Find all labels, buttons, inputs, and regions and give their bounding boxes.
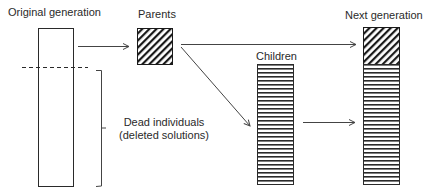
next-generation-parents-part bbox=[364, 28, 400, 65]
dead-individuals-bracket bbox=[96, 71, 106, 187]
parents-box bbox=[138, 29, 173, 65]
children-box bbox=[258, 65, 294, 185]
original-generation-label: Original generation bbox=[8, 6, 101, 19]
original-generation-box bbox=[39, 29, 74, 187]
ga-diagram bbox=[0, 0, 433, 193]
dead-individuals-line2: (deleted solutions) bbox=[118, 129, 210, 142]
parents-label: Parents bbox=[138, 8, 176, 21]
arrow-parents-to-children bbox=[181, 47, 250, 126]
dead-individuals-label: Dead individuals (deleted solutions) bbox=[118, 116, 210, 142]
dead-individuals-line1: Dead individuals bbox=[118, 116, 210, 129]
next-generation-children-part bbox=[364, 65, 400, 185]
children-label: Children bbox=[256, 50, 297, 63]
next-generation-label: Next generation bbox=[345, 9, 423, 22]
